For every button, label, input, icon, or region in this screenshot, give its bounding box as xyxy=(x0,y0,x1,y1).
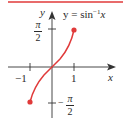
y-axis-label: y xyxy=(40,7,45,18)
pi-symbol: π xyxy=(35,20,40,30)
equation-label: y = sin−1x xyxy=(63,9,105,20)
equation-exponent: −1 xyxy=(93,8,100,16)
x-tick-label-neg-one: −1 xyxy=(15,73,27,84)
y-tick-label-pi-half: π 2 xyxy=(34,20,42,43)
y-tick-label-neg-pi-half: π 2 xyxy=(66,94,74,117)
endpoint-top xyxy=(71,27,76,32)
denominator: 2 xyxy=(68,107,73,117)
x-axis-label: x xyxy=(108,72,113,83)
minus-sign: − xyxy=(58,98,64,108)
equation-prefix: y = sin xyxy=(63,8,93,20)
denominator: 2 xyxy=(36,33,41,43)
equation-variable: x xyxy=(101,8,106,20)
pi-symbol: π xyxy=(67,94,72,104)
x-tick-label-one: 1 xyxy=(71,73,77,84)
endpoint-bottom xyxy=(27,99,32,104)
